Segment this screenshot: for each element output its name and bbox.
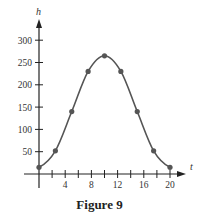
x-tick-label: 4 (63, 180, 68, 190)
x-tick-label: 8 (89, 180, 94, 190)
x-axis-arrow-icon (177, 171, 186, 177)
y-axis-label: h (36, 6, 41, 17)
y-axis-arrow-icon (36, 19, 42, 28)
y-tick-label: 250 (18, 58, 33, 68)
x-tick-label: 20 (165, 180, 175, 190)
y-tick-label: 50 (23, 147, 33, 157)
x-axis-label: t (190, 161, 193, 172)
x-tick-label: 16 (139, 180, 149, 190)
data-point (102, 53, 107, 58)
x-tick-label: 12 (113, 180, 123, 190)
h-curve (39, 56, 170, 168)
y-tick-label: 200 (18, 80, 33, 90)
data-point (167, 165, 172, 170)
data-point (151, 148, 156, 153)
data-point (69, 109, 74, 114)
data-point (135, 109, 140, 114)
data-point (86, 69, 91, 74)
y-tick-label: 300 (18, 36, 33, 46)
data-point (118, 69, 123, 74)
y-tick-label: 150 (18, 103, 33, 113)
data-point (36, 165, 41, 170)
data-point (53, 148, 58, 153)
y-tick-label: 100 (18, 125, 33, 135)
figure-caption: Figure 9 (0, 197, 199, 213)
chart: ht5010015020025030048121620 (0, 0, 199, 216)
